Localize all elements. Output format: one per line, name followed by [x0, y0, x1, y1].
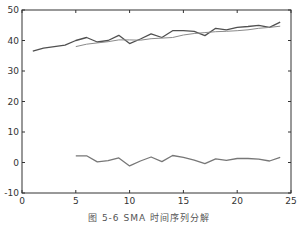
x-tick-label: 20 — [231, 196, 243, 206]
y-tick-label: 30 — [8, 66, 20, 76]
series-line-original — [33, 22, 280, 51]
y-tick-label: 50 — [8, 5, 20, 15]
x-tick-label: 5 — [73, 196, 79, 206]
line-chart: 0510152025 -1001020304050 — [0, 0, 298, 210]
y-tick-label: 40 — [8, 36, 20, 46]
plot-lines — [33, 22, 280, 166]
x-tick-label: 15 — [178, 196, 189, 206]
series-line-trend-sma — [76, 26, 280, 46]
y-tick-label: -10 — [4, 188, 19, 198]
y-axis: -1001020304050 — [4, 5, 291, 198]
x-axis: 0510152025 — [19, 10, 297, 206]
x-tick-label: 0 — [19, 196, 25, 206]
y-tick-label: 20 — [8, 97, 20, 107]
x-tick-label: 25 — [285, 196, 296, 206]
y-tick-label: 10 — [8, 127, 20, 137]
y-tick-label: 0 — [13, 158, 19, 168]
axes-frame — [22, 10, 291, 193]
series-line-residual — [76, 156, 280, 166]
x-tick-label: 10 — [124, 196, 136, 206]
figure-caption: 图 5-6 SMA 时间序列分解 — [0, 211, 298, 224]
